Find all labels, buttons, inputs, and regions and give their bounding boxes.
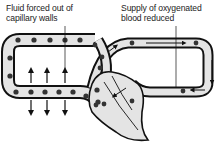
left-capillary-loop: [8, 40, 98, 102]
capillary-diagram: [0, 0, 216, 149]
